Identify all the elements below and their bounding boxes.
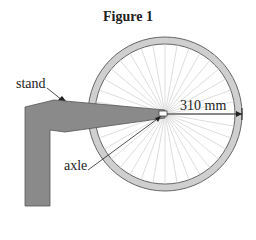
stand-label: stand — [16, 76, 46, 92]
axle-label: axle — [64, 158, 87, 174]
axle — [159, 111, 167, 116]
stand-leader — [47, 88, 62, 100]
radius-label: 310 mm — [180, 98, 226, 114]
